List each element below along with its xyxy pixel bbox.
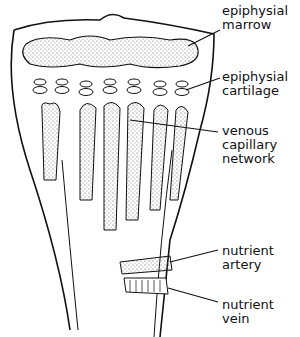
label-nutrient-artery: nutrient artery bbox=[222, 244, 274, 272]
epiphysial-cartilage-shape bbox=[33, 79, 189, 96]
nutrient-artery-shape bbox=[120, 256, 172, 274]
venous-capillary-network-shape bbox=[42, 102, 188, 230]
nutrient-vein-shape bbox=[124, 278, 168, 294]
label-epiphysial-cartilage: epiphysial cartilage bbox=[222, 70, 288, 98]
label-epiphysial-marrow: epiphysial marrow bbox=[222, 4, 288, 32]
label-nutrient-vein: nutrient vein bbox=[222, 298, 274, 326]
epiphysial-marrow-shape bbox=[23, 36, 198, 68]
bone-diagram bbox=[0, 0, 300, 337]
label-venous-capillary-network: venous capillary network bbox=[222, 124, 277, 166]
